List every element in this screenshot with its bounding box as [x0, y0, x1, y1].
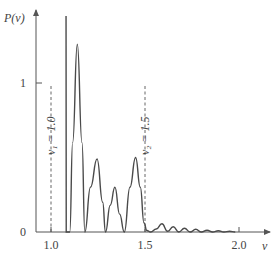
- x-tick-label: 1.0: [44, 238, 59, 252]
- x-axis-label: ν: [262, 239, 268, 253]
- x-tick-label: 1.5: [138, 238, 153, 252]
- y-tick-label: 0: [20, 225, 26, 239]
- y-axis-label: P(ν): [3, 11, 25, 25]
- chart: 1.01.52.001 ν₁ = 1.0ν₂ = 1.5 P(ν) ν: [0, 0, 278, 259]
- annotation-label-nu1: ν₁ = 1.0: [44, 116, 58, 155]
- x-tick-label: 2.0: [232, 238, 247, 252]
- y-tick-label: 1: [20, 76, 26, 90]
- annotation-label-nu2: ν₂ = 1.5: [138, 116, 152, 155]
